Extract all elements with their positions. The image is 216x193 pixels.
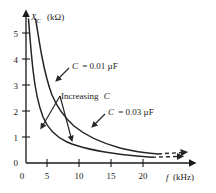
y-tick-label-5: 5: [14, 29, 19, 39]
y-tick-label-1: 1: [14, 133, 19, 143]
y-tick-label-0: 0: [14, 158, 19, 168]
x-tick-label-0: 0: [20, 171, 25, 181]
xc-vs-frequency-chart: 0 1 2 3 4 5 0 5 10 15 20 XC (kΩ): [0, 0, 216, 193]
x-axis-label-symbol: f: [166, 172, 170, 182]
annotation-arrow-c-003uf: [95, 114, 105, 124]
increasing-c-symbol: C: [104, 91, 111, 101]
label-c-001uf-value: = 0.01 µF: [82, 61, 118, 71]
annotation-c-003uf: C = 0.03 µF: [95, 107, 154, 124]
increasing-c-arrow-upper: [43, 96, 60, 125]
x-tick-label-10: 10: [75, 171, 85, 181]
increasing-c-text: Increasing: [61, 91, 99, 101]
curve-c-003uf: [29, 19, 179, 157]
figure-canvas: 0 1 2 3 4 5 0 5 10 15 20 XC (kΩ): [0, 0, 216, 193]
label-c-003uf-value: = 0.03 µF: [118, 107, 154, 117]
annotation-arrow-c-001uf: [59, 68, 69, 78]
svg-text:C = 0.03 µF: C = 0.03 µF: [108, 107, 154, 117]
x-axis-label: f (kHz): [166, 172, 194, 182]
x-axis-unit-text: (kHz): [173, 172, 194, 182]
x-axis-ticks: 0 5 10 15 20: [20, 159, 148, 181]
label-c-001uf-symbol: C: [72, 61, 79, 71]
x-tick-label-5: 5: [45, 171, 50, 181]
curve-extension-arrow-c-003uf: [152, 157, 178, 158]
curve-extension-arrow-c-001uf: [158, 153, 182, 155]
y-tick-label-3: 3: [14, 81, 19, 91]
svg-text:Increasing C: Increasing C: [61, 91, 111, 101]
y-axis-unit-text: (kΩ): [47, 12, 64, 22]
curve-c-001uf: [36, 19, 182, 154]
y-axis-label-subscript: C: [37, 17, 42, 24]
y-axis-ticks: 0 1 2 3 4 5: [14, 29, 31, 168]
increasing-c-arrow-lower: [60, 96, 71, 137]
annotation-c-001uf: C = 0.01 µF: [59, 61, 118, 78]
x-tick-label-20: 20: [139, 171, 149, 181]
label-c-003uf-symbol: C: [108, 107, 115, 117]
y-tick-label-4: 4: [14, 55, 19, 65]
svg-text:C = 0.01 µF: C = 0.01 µF: [72, 61, 118, 71]
x-tick-label-15: 15: [107, 171, 117, 181]
y-axis-label: XC (kΩ): [30, 12, 64, 24]
y-tick-label-2: 2: [14, 107, 19, 117]
